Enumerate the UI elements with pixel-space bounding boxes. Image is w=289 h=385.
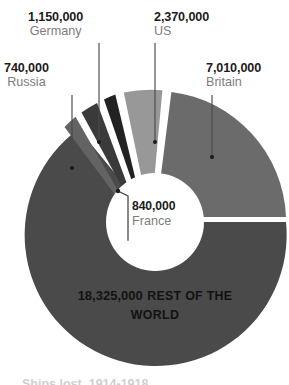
leader-dot-us bbox=[153, 140, 157, 144]
label-russia-value: 740,000 bbox=[4, 61, 49, 75]
label-russia: 740,000 Russia bbox=[4, 61, 49, 89]
leader-dot-britain bbox=[210, 155, 214, 159]
label-britain-country: Britain bbox=[206, 75, 261, 89]
label-germany: 1,150,000 Germany bbox=[28, 10, 83, 38]
label-france-country: France bbox=[132, 214, 175, 228]
label-us-value: 2,370,000 bbox=[154, 10, 209, 24]
infographic-donut-chart: 1,150,000 Germany 740,000 Russia 2,370,0… bbox=[0, 0, 289, 385]
label-russia-country: Russia bbox=[4, 75, 49, 89]
label-us-country: US bbox=[154, 24, 209, 38]
leader-dot-russia bbox=[70, 166, 74, 170]
leader-dot-france bbox=[116, 189, 120, 193]
label-rest-country: REST OF THE WORLD bbox=[131, 289, 233, 322]
label-germany-country: Germany bbox=[28, 24, 83, 38]
britain-row-divider bbox=[196, 218, 288, 223]
label-us: 2,370,000 US bbox=[154, 10, 209, 38]
label-britain-value: 7,010,000 bbox=[206, 61, 261, 75]
label-france-value: 840,000 bbox=[132, 200, 175, 214]
label-germany-value: 1,150,000 bbox=[28, 10, 83, 24]
donut-chart-svg bbox=[0, 0, 289, 385]
label-france: 840,000 France bbox=[132, 200, 175, 228]
label-britain: 7,010,000 Britain bbox=[206, 61, 261, 89]
leader-dot-germany bbox=[97, 140, 101, 144]
chart-caption: Ships lost, 1914-1918 bbox=[22, 377, 272, 385]
label-rest-of-the-world: 18,325,000 REST OF THE WORLD bbox=[64, 286, 246, 323]
label-rest-value: 18,325,000 bbox=[78, 288, 143, 303]
